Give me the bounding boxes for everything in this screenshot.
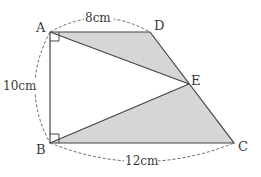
shaded-triangle-bec xyxy=(50,84,234,143)
trapezoid-diagram: A D E B C 8cm 10cm 12cm xyxy=(0,0,261,177)
point-label-a: A xyxy=(35,20,46,35)
dimension-label-bc: 12cm xyxy=(125,154,159,168)
point-label-e: E xyxy=(191,73,201,88)
point-label-b: B xyxy=(36,142,46,157)
dimension-label-ab: 10cm xyxy=(3,79,37,93)
point-label-d: D xyxy=(154,18,164,33)
dimension-label-ad: 8cm xyxy=(85,11,111,25)
point-label-c: C xyxy=(238,139,248,154)
